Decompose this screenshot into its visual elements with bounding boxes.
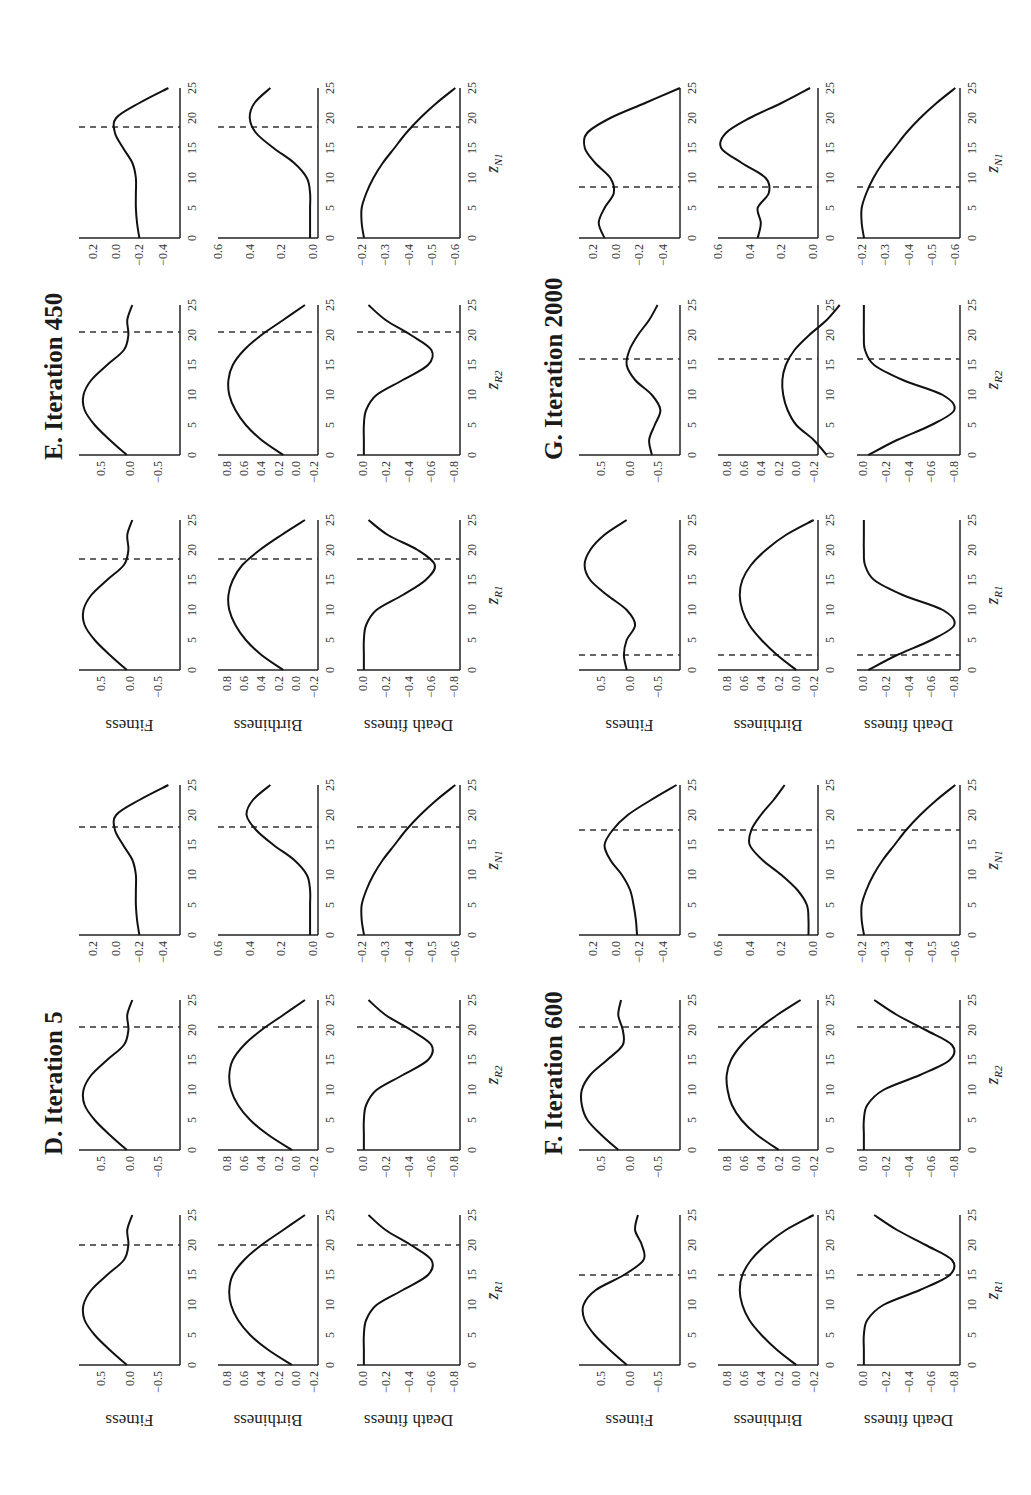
x-tick-label: 15: [823, 839, 837, 851]
series-curve: [749, 785, 809, 935]
y-tick-label: −0.5: [151, 676, 165, 698]
x-tick-label: 15: [323, 359, 337, 371]
x-tick-label: 0: [323, 1362, 337, 1368]
x-tick-label: 15: [823, 1054, 837, 1066]
series-curve: [83, 520, 132, 670]
x-tick-label: 5: [465, 637, 479, 643]
x-axis-label: z̄N1: [483, 153, 504, 173]
y-tick-label: −0.2: [807, 1156, 821, 1178]
y-tick-label: −0.3: [878, 941, 892, 963]
x-tick-label: 20: [323, 329, 337, 341]
x-tick-label: 5: [685, 422, 699, 428]
x-tick-label: 10: [685, 389, 699, 401]
y-tick-label: 0.4: [254, 1156, 268, 1171]
x-tick-label: 15: [185, 359, 199, 371]
y-tick-label: 0.2: [774, 941, 788, 956]
x-tick-label: 15: [965, 1269, 979, 1281]
x-tick-label: 10: [965, 1299, 979, 1311]
x-tick-label: 20: [685, 1024, 699, 1036]
x-tick-label: 25: [185, 514, 199, 526]
x-tick-label: 15: [965, 142, 979, 154]
x-tick-label: 5: [685, 1332, 699, 1338]
y-tick-label: 0.0: [289, 461, 303, 476]
group-title: D. Iteration 5: [40, 1011, 67, 1155]
y-tick-label: −0.3: [878, 244, 892, 266]
series-curve: [605, 785, 677, 935]
y-tick-label: −0.4: [402, 676, 416, 698]
x-tick-label: 5: [185, 637, 199, 643]
y-tick-label: 0.6: [737, 1371, 751, 1386]
series-curve: [720, 88, 810, 238]
x-tick-label: 25: [823, 82, 837, 94]
x-tick-label: 10: [465, 869, 479, 881]
y-tick-label: 0.4: [754, 461, 768, 476]
series-curve: [864, 1000, 955, 1150]
series-curve: [364, 1215, 433, 1365]
x-tick-label: 0: [323, 932, 337, 938]
y-tick-label: 0.2: [272, 1371, 286, 1386]
y-tick-label: 0.5: [94, 461, 108, 476]
x-tick-label: 20: [965, 112, 979, 124]
x-tick-label: 25: [323, 82, 337, 94]
y-tick-label: 0.2: [272, 676, 286, 691]
x-tick-label: 5: [823, 422, 837, 428]
x-tick-label: 10: [965, 869, 979, 881]
x-tick-label: 0: [465, 452, 479, 458]
y-tick-label: 0.4: [254, 461, 268, 476]
y-tick-label: −0.8: [447, 1156, 461, 1178]
x-tick-label: 5: [465, 205, 479, 211]
row-label: Birthiness: [234, 1411, 303, 1430]
series-curve: [228, 305, 305, 455]
y-tick-label: 0.2: [274, 941, 288, 956]
y-tick-label: −0.6: [924, 461, 938, 483]
row-label: Death fitness: [364, 1411, 453, 1430]
x-tick-label: 20: [965, 809, 979, 821]
y-tick-label: −0.6: [948, 941, 962, 963]
y-tick-label: 0.0: [789, 461, 803, 476]
x-tick-label: 20: [823, 329, 837, 341]
y-tick-label: −0.2: [307, 461, 321, 483]
figure-stage: D. Iteration 505101520250.50.0−0.5Fitnes…: [0, 0, 1031, 1495]
y-tick-label: 0.0: [356, 461, 370, 476]
x-tick-label: 25: [965, 994, 979, 1006]
x-tick-label: 5: [965, 205, 979, 211]
x-tick-label: 10: [965, 389, 979, 401]
x-tick-label: 0: [185, 667, 199, 673]
y-tick-label: 0.6: [737, 676, 751, 691]
x-tick-label: 10: [823, 869, 837, 881]
y-tick-label: 0.6: [237, 1156, 251, 1171]
y-tick-label: 0.0: [123, 1371, 137, 1386]
group-title: G. Iteration 2000: [540, 277, 567, 460]
y-tick-label: 0.2: [272, 461, 286, 476]
series-curve: [583, 1215, 645, 1365]
y-tick-label: 0.0: [609, 244, 623, 259]
row-label: Fitness: [605, 1411, 653, 1430]
x-tick-label: 5: [185, 205, 199, 211]
x-tick-label: 15: [185, 839, 199, 851]
x-tick-label: 10: [465, 1299, 479, 1311]
y-tick-label: 0.4: [754, 1371, 768, 1386]
x-tick-label: 0: [465, 932, 479, 938]
x-tick-label: 25: [823, 994, 837, 1006]
x-tick-label: 25: [185, 299, 199, 311]
x-axis-label: z̄R2: [483, 370, 504, 390]
y-tick-label: −0.4: [156, 244, 170, 266]
x-axis-label: z̄R2: [483, 1065, 504, 1085]
x-tick-label: 20: [823, 544, 837, 556]
x-tick-label: 20: [185, 809, 199, 821]
x-tick-label: 15: [965, 359, 979, 371]
row-label: Death fitness: [864, 1411, 953, 1430]
row-label: Birthiness: [234, 716, 303, 735]
x-tick-label: 15: [823, 1269, 837, 1281]
x-tick-label: 15: [465, 142, 479, 154]
x-axis-label: z̄R1: [483, 586, 504, 606]
x-tick-label: 10: [823, 172, 837, 184]
y-tick-label: −0.2: [807, 676, 821, 698]
x-tick-label: 15: [685, 1269, 699, 1281]
y-tick-label: 0.5: [594, 1156, 608, 1171]
x-tick-label: 5: [823, 205, 837, 211]
x-tick-label: 25: [685, 1209, 699, 1221]
series-curve: [584, 88, 680, 238]
y-tick-label: −0.4: [902, 461, 916, 483]
y-tick-label: −0.2: [855, 941, 869, 963]
